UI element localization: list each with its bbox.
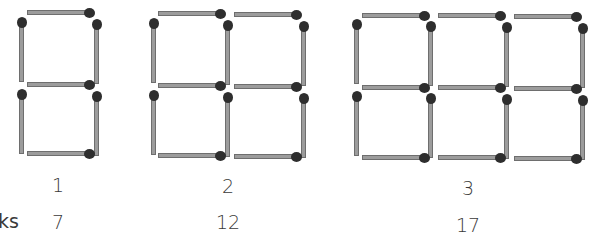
matchstick-stick — [438, 155, 499, 160]
matchstick-stick — [19, 95, 24, 154]
matchstick-head-icon — [17, 17, 27, 28]
matchstick — [158, 81, 227, 91]
matchstick — [362, 11, 431, 21]
matchstick-head-icon — [426, 93, 436, 104]
matchstick-stick — [514, 86, 575, 91]
matchstick-head-icon — [419, 83, 430, 93]
matchstick — [352, 19, 362, 84]
matchstick-head-icon — [84, 8, 95, 18]
matchstick-head-icon — [502, 22, 512, 33]
matchstick-stick — [19, 23, 24, 82]
matchstick-stick — [362, 85, 423, 90]
matchstick-stick — [234, 84, 295, 89]
matchstick — [352, 91, 362, 156]
matchstick-head-icon — [571, 154, 582, 164]
matchstick — [27, 149, 96, 159]
matchstick — [362, 153, 431, 163]
matchstick-head-icon — [495, 153, 506, 163]
matchstick-head-icon — [571, 12, 582, 22]
matchstick — [362, 83, 431, 93]
matchstick — [578, 23, 588, 88]
matchstick-head-icon — [84, 149, 95, 159]
matchstick-stick — [514, 14, 575, 19]
matchstick-head-icon — [149, 18, 159, 29]
matchstick-stick — [234, 154, 295, 159]
matchstick — [426, 93, 436, 158]
matchstick-stick — [428, 99, 433, 158]
matchstick-stick — [151, 96, 156, 155]
matchstick — [438, 83, 507, 93]
matchstick-head-icon — [352, 19, 362, 30]
matchstick-head-icon — [223, 20, 233, 31]
matchstick — [27, 80, 96, 90]
matchstick — [438, 11, 507, 21]
matchstick — [438, 153, 507, 163]
matchstick — [578, 95, 588, 160]
figure-2-label: 2 — [222, 177, 234, 196]
matchstick-head-icon — [299, 93, 309, 104]
matchstick-head-icon — [419, 11, 430, 21]
matchstick — [426, 21, 436, 86]
matchstick — [17, 89, 27, 154]
matchstick — [27, 8, 96, 18]
matchstick — [223, 20, 233, 85]
matchstick — [17, 17, 27, 82]
matchstick — [502, 94, 512, 159]
matchstick — [234, 10, 303, 20]
figure-3-label: 3 — [462, 179, 474, 198]
figure-3-count: 17 — [456, 216, 480, 232]
matchstick — [223, 92, 233, 157]
matchstick — [92, 19, 102, 84]
matchstick — [502, 22, 512, 87]
matchstick-stick — [514, 156, 575, 161]
matchstick-head-icon — [149, 90, 159, 101]
row-label-matchsticks: ks — [0, 212, 19, 231]
matchstick-head-icon — [223, 92, 233, 103]
matchstick-head-icon — [215, 9, 226, 19]
matchstick-stick — [362, 155, 423, 160]
matchstick-head-icon — [215, 81, 226, 91]
matchstick-stick — [94, 25, 99, 84]
matchstick-head-icon — [92, 19, 102, 30]
matchstick — [514, 12, 583, 22]
matchstick-stick — [27, 82, 88, 87]
matchstick-stick — [158, 83, 219, 88]
matchstick-head-icon — [495, 11, 506, 21]
matchstick-stick — [580, 101, 585, 160]
matchstick-head-icon — [419, 153, 430, 163]
matchstick-head-icon — [578, 23, 588, 34]
matchstick-head-icon — [17, 89, 27, 100]
matchstick-stick — [151, 24, 156, 83]
matchstick — [158, 9, 227, 19]
matchstick-head-icon — [578, 95, 588, 106]
matchstick — [158, 151, 227, 161]
matchstick-head-icon — [502, 94, 512, 105]
matchstick — [514, 84, 583, 94]
matchstick — [514, 154, 583, 164]
matchstick-head-icon — [299, 21, 309, 32]
matchstick-stick — [301, 99, 306, 158]
matchstick-stick — [27, 10, 88, 15]
matchstick-stick — [301, 27, 306, 86]
matchstick-stick — [580, 29, 585, 88]
matchstick — [149, 90, 159, 155]
matchstick-stick — [428, 27, 433, 86]
matchstick — [234, 152, 303, 162]
matchstick — [92, 91, 102, 156]
matchstick-head-icon — [215, 151, 226, 161]
matchstick — [149, 18, 159, 83]
matchstick-head-icon — [571, 84, 582, 94]
matchstick-stick — [362, 13, 423, 18]
matchstick-head-icon — [84, 80, 95, 90]
matchstick-stick — [354, 25, 359, 84]
matchstick-stick — [504, 100, 509, 159]
matchstick-figures — [0, 0, 589, 170]
matchstick-head-icon — [495, 83, 506, 93]
matchstick-head-icon — [291, 82, 302, 92]
matchstick-head-icon — [291, 152, 302, 162]
matchstick-head-icon — [352, 91, 362, 102]
matchstick — [299, 93, 309, 158]
matchstick-stick — [354, 97, 359, 156]
matchstick-head-icon — [426, 21, 436, 32]
matchstick-stick — [438, 13, 499, 18]
